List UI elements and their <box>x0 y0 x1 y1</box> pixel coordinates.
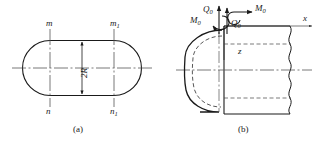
label-m1: m1 <box>110 19 120 28</box>
axis-label-x: x <box>303 14 307 23</box>
undeformed-shell-outline <box>192 36 222 107</box>
caption-panel-b: (b) <box>238 124 249 134</box>
load-label-moment-right-subscript: 0 <box>263 7 266 14</box>
label-m1-subscript: 1 <box>117 22 120 29</box>
load-label-shear-left: Q0 <box>203 5 213 14</box>
load-label-shear-right-subscript: 0 <box>238 22 241 29</box>
load-label-moment-right: M0 <box>255 4 266 13</box>
load-label-shear-right: Q0 <box>231 19 241 28</box>
label-n: n <box>46 107 51 116</box>
axis-label-z: z <box>238 47 242 56</box>
label-m: m <box>46 19 53 28</box>
load-label-moment-left-subscript: 0 <box>198 19 201 26</box>
label-n1: n1 <box>110 107 118 116</box>
label-n1-subscript: 1 <box>115 110 118 117</box>
load-label-moment-left: M0 <box>190 16 201 25</box>
load-label-shear-left-subscript: 0 <box>210 8 213 15</box>
caption-panel-a: (a) <box>73 124 83 134</box>
dimension-label-2r: 2R <box>80 68 89 78</box>
engineering-figure: m m1 n n1 2R (a) Q0 M0 M0 Q0 x z (b) <box>0 0 321 144</box>
